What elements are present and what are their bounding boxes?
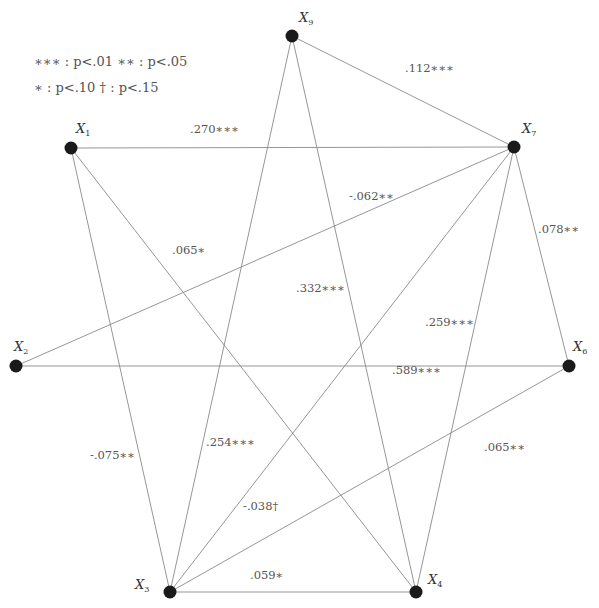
node-dot xyxy=(10,360,23,373)
node-x9: X9 xyxy=(286,10,314,43)
node-label: X7 xyxy=(521,121,536,138)
node-label: X3 xyxy=(134,577,149,594)
edge-label: -.038† xyxy=(243,499,278,513)
edge-x1-x7 xyxy=(71,147,514,148)
edge-x7-x3 xyxy=(170,147,514,592)
edge-label: .270∗∗∗ xyxy=(190,122,239,136)
network-svg: ∗∗∗ : p<.01 ∗∗ : p<.05 ∗ : p<.10 † : p<.… xyxy=(0,0,599,608)
edges-layer xyxy=(16,36,569,592)
node-dot xyxy=(563,360,576,373)
edge-label: .259∗∗∗ xyxy=(425,315,474,329)
edge-x6-x3 xyxy=(170,366,569,592)
edge-label: .065∗ xyxy=(172,243,205,257)
correlation-network-diagram: ∗∗∗ : p<.01 ∗∗ : p<.05 ∗ : p<.10 † : p<.… xyxy=(0,0,599,608)
node-label: X4 xyxy=(427,572,442,589)
edge-label: .059∗ xyxy=(250,568,283,582)
edge-label: .065∗∗ xyxy=(484,440,525,454)
legend-line-2: ∗ : p<.10 † : p<.15 xyxy=(34,80,159,95)
node-label: X6 xyxy=(572,339,587,356)
edge-label: -.062∗∗ xyxy=(349,189,394,203)
edge-x9-x7 xyxy=(292,36,514,147)
node-label: X1 xyxy=(75,121,90,138)
edge-label: .078∗∗ xyxy=(538,222,579,236)
node-dot xyxy=(164,586,177,599)
significance-legend: ∗∗∗ : p<.01 ∗∗ : p<.05 ∗ : p<.10 † : p<.… xyxy=(34,54,187,95)
edge-x1-x3 xyxy=(71,148,170,592)
node-x1: X1 xyxy=(65,121,91,155)
node-label: X2 xyxy=(13,339,28,356)
edge-x9-x4 xyxy=(292,36,416,592)
edge-label: .332∗∗∗ xyxy=(296,281,345,295)
edge-x7-x6 xyxy=(514,147,569,366)
nodes-layer: X9X1X7X2X6X3X4 xyxy=(10,10,588,599)
node-label: X9 xyxy=(298,10,313,27)
node-x7: X7 xyxy=(508,121,537,154)
node-dot xyxy=(65,142,78,155)
edge-label: .112∗∗∗ xyxy=(405,61,454,75)
node-x2: X2 xyxy=(10,339,29,373)
edge-label: .589∗∗∗ xyxy=(392,363,441,377)
edge-label: .254∗∗∗ xyxy=(206,435,255,449)
edge-labels-layer: .112∗∗∗.270∗∗∗-.062∗∗.078∗∗.065∗.332∗∗∗.… xyxy=(90,61,579,582)
node-dot xyxy=(286,30,299,43)
legend-line-1: ∗∗∗ : p<.01 ∗∗ : p<.05 xyxy=(34,54,187,69)
edge-label: -.075∗∗ xyxy=(90,448,135,462)
edge-x1-x4 xyxy=(71,148,416,592)
node-dot xyxy=(410,586,423,599)
node-x3: X3 xyxy=(134,577,177,599)
edge-x7-x2 xyxy=(16,147,514,366)
node-dot xyxy=(508,141,521,154)
